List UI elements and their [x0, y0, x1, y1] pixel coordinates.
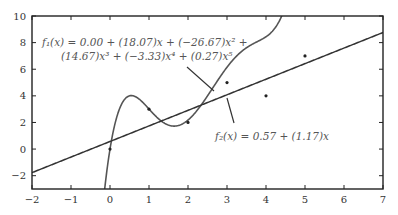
data-point [264, 94, 267, 97]
y-tick-label: 2 [20, 117, 26, 128]
x-tick-label: 0 [107, 194, 113, 205]
data-point [147, 108, 150, 111]
x-tick-label: 1 [146, 194, 152, 205]
y-tick-label: 0 [20, 144, 26, 155]
f2-annotation: f₂(x) = 0.57 + (1.17)x [214, 130, 329, 142]
x-tick-label: 4 [263, 194, 269, 205]
f1-curve [32, 0, 383, 215]
y-tick-label: 10 [13, 11, 26, 22]
y-tick-label: 6 [20, 64, 26, 75]
data-point [225, 81, 228, 84]
x-tick-label: 5 [302, 194, 308, 205]
data-point [186, 121, 189, 124]
y-tick-label: −2 [11, 170, 26, 181]
x-tick-label: 7 [380, 194, 386, 205]
f1-annotation-pointer [187, 67, 214, 91]
x-tick-label: 6 [341, 194, 347, 205]
y-tick-label: 4 [20, 90, 26, 101]
x-tick-label: −1 [64, 194, 79, 205]
chart: −2−101234567−20246810 f₁(x) = 0.00 + (18… [0, 0, 398, 215]
data-point [108, 147, 111, 150]
x-tick-label: 2 [185, 194, 191, 205]
x-tick-label: 3 [224, 194, 230, 205]
f1-annotation-line2: (14.67)x³ + (−3.33)x⁴ + (0.27)x⁵ [61, 50, 233, 62]
data-point [303, 54, 306, 57]
y-tick-label: 8 [20, 37, 26, 48]
f1-annotation-line1: f₁(x) = 0.00 + (18.07)x + (−26.67)x² + [41, 36, 248, 48]
x-tick-label: −2 [25, 194, 40, 205]
f2-annotation-pointer [227, 98, 234, 123]
